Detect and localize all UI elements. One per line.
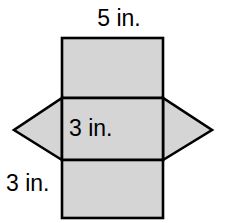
left-triangle-face	[14, 98, 62, 160]
dimension-label-middle: 3 in.	[69, 117, 112, 140]
net-diagram: 5 in. 3 in. 3 in.	[0, 0, 238, 223]
right-triangle-face	[163, 98, 212, 160]
dimension-label-top: 5 in.	[0, 7, 238, 30]
bottom-rectangle-face	[62, 160, 163, 218]
dimension-label-bottom-left: 3 in.	[6, 172, 49, 195]
top-rectangle-face	[62, 38, 163, 98]
